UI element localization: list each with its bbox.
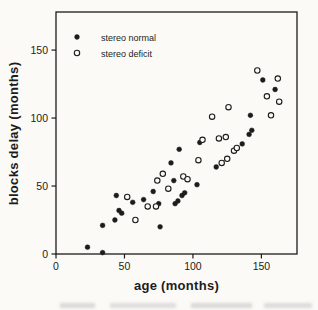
legend-marker-open-circle	[74, 50, 79, 55]
data-point-stereo-normal	[113, 218, 118, 223]
data-point-stereo-normal	[151, 189, 156, 194]
data-point-stereo-normal	[114, 193, 119, 198]
y-tick-label: 100	[30, 112, 48, 124]
scatter-plot-canvas: 050100150050100150stereo normalstereo de…	[0, 0, 318, 310]
data-point-stereo-normal	[100, 250, 105, 255]
data-point-stereo-deficit	[209, 114, 214, 119]
data-point-stereo-normal	[240, 142, 245, 147]
plot-border	[56, 12, 297, 254]
scatter-figure: 050100150050100150stereo normalstereo de…	[0, 0, 318, 310]
y-tick-label: 50	[36, 180, 48, 192]
data-point-stereo-normal	[176, 199, 181, 204]
data-point-stereo-deficit	[133, 217, 138, 222]
legend-label-stereo-normal: stereo normal	[101, 33, 156, 43]
data-point-stereo-deficit	[200, 137, 205, 142]
data-point-stereo-deficit	[264, 94, 269, 99]
legend-marker-filled-circle	[75, 35, 80, 40]
data-point-stereo-deficit	[166, 186, 171, 191]
data-point-stereo-normal	[248, 113, 253, 118]
data-point-stereo-deficit	[185, 177, 190, 182]
scan-artifact-smudge	[60, 303, 312, 308]
x-axis-title: age (months)	[56, 278, 297, 293]
data-point-stereo-normal	[249, 128, 254, 133]
data-point-stereo-deficit	[234, 145, 239, 150]
data-point-stereo-deficit	[216, 136, 221, 141]
legend-label-stereo-deficit: stereo deficit	[101, 49, 153, 59]
data-point-stereo-deficit	[277, 99, 282, 104]
data-point-stereo-deficit	[125, 194, 130, 199]
data-point-stereo-normal	[195, 182, 200, 187]
data-point-stereo-normal	[171, 178, 176, 183]
y-tick-label: 0	[42, 248, 48, 260]
data-point-stereo-deficit	[219, 160, 224, 165]
x-tick-label: 150	[253, 260, 271, 272]
data-point-stereo-normal	[119, 211, 124, 216]
data-point-stereo-deficit	[145, 204, 150, 209]
data-point-stereo-deficit	[155, 178, 160, 183]
data-point-stereo-deficit	[275, 76, 280, 81]
data-point-stereo-deficit	[153, 204, 158, 209]
data-point-stereo-deficit	[268, 113, 273, 118]
data-point-stereo-deficit	[226, 105, 231, 110]
data-point-stereo-normal	[214, 165, 219, 170]
data-point-stereo-normal	[260, 78, 265, 83]
data-point-stereo-normal	[158, 224, 163, 229]
data-point-stereo-normal	[141, 197, 146, 202]
data-point-stereo-normal	[182, 190, 187, 195]
data-point-stereo-deficit	[160, 171, 165, 176]
x-tick-label: 100	[184, 260, 202, 272]
data-point-stereo-deficit	[225, 156, 230, 161]
data-point-stereo-normal	[130, 200, 135, 205]
data-point-stereo-normal	[169, 161, 174, 166]
data-point-stereo-normal	[85, 245, 90, 250]
data-point-stereo-normal	[273, 87, 278, 92]
y-tick-label: 150	[30, 44, 48, 56]
data-point-stereo-deficit	[196, 158, 201, 163]
data-point-stereo-normal	[100, 223, 105, 228]
data-point-stereo-deficit	[223, 134, 228, 139]
x-tick-label: 0	[53, 260, 59, 272]
data-point-stereo-deficit	[255, 68, 260, 73]
x-tick-label: 50	[119, 260, 131, 272]
data-point-stereo-normal	[177, 147, 182, 152]
y-axis-title: blocks delay (months)	[6, 34, 23, 234]
